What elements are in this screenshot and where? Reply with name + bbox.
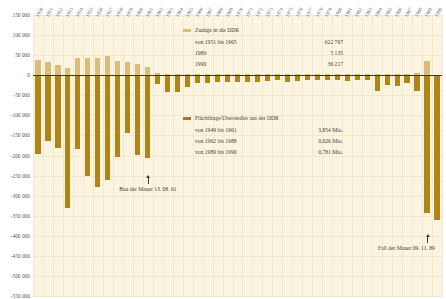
bar-negative: [414, 75, 419, 91]
bar-positive: [115, 61, 120, 75]
bar-positive: [45, 62, 50, 75]
bar-negative: [75, 75, 80, 149]
gridline-vertical: [432, 15, 433, 296]
annotation-arrow-icon: [146, 175, 150, 178]
gridline-vertical: [33, 15, 34, 296]
legend-row: von 1962 bis 19880,626 Mio.: [183, 136, 343, 147]
legend-row: von 1989 bis 19900,781 Mio.: [183, 147, 343, 158]
y-axis-tick-label: 150 000: [0, 12, 30, 18]
bar-positive: [135, 64, 140, 76]
bar-negative: [175, 75, 180, 92]
gridline-vertical: [392, 15, 393, 296]
bar-positive: [105, 56, 110, 75]
bar-negative: [35, 75, 40, 154]
bar-negative: [185, 75, 190, 87]
legend-title-row: Flüchtlinge/Übersiedler aus der DDR: [183, 113, 343, 124]
legend-row-value: 622 767: [299, 37, 343, 48]
bar-positive: [55, 65, 60, 75]
bar-negative: [385, 75, 390, 85]
y-axis-tick-label: -400 000: [0, 233, 30, 239]
bar-negative: [135, 75, 140, 155]
bar-positive: [75, 58, 80, 76]
bar-negative: [404, 75, 409, 83]
bar-negative: [65, 75, 70, 208]
bar-positive: [125, 62, 130, 76]
legend-title: Flüchtlinge/Übersiedler aus der DDR: [195, 113, 279, 124]
gridline-horizontal: [33, 196, 442, 197]
gridline-vertical: [173, 15, 174, 296]
legend-row: 199036 217: [183, 59, 343, 70]
gridline-vertical: [63, 15, 64, 296]
bar-negative: [205, 75, 210, 83]
y-axis-tick-label: -150 000: [0, 132, 30, 138]
legend-row-value: 5 135: [299, 48, 343, 59]
gridline-vertical: [382, 15, 383, 296]
gridline-vertical: [412, 15, 413, 296]
y-axis-tick-label: -450 000: [0, 253, 30, 259]
y-axis-tick-label: 50 000: [0, 52, 30, 58]
gridline-vertical: [163, 15, 164, 296]
legend-title-row: Zuzüge in die DDR: [183, 25, 343, 36]
gridline-vertical: [93, 15, 94, 296]
gridline-vertical: [83, 15, 84, 296]
legend-swatch-icon: [183, 29, 191, 32]
y-axis-tick-label: -100 000: [0, 112, 30, 118]
y-axis-tick-label: -550 000: [0, 293, 30, 299]
legend-row-value: 0,781 Mio.: [299, 147, 343, 158]
gridline-horizontal: [33, 276, 442, 277]
bar-negative: [55, 75, 60, 148]
y-axis-tick-label: -50 000: [0, 92, 30, 98]
bar-positive: [35, 60, 40, 75]
bar-negative: [255, 75, 260, 82]
bar-negative: [85, 75, 90, 176]
legend-zuzuege: Zuzüge in die DDRvon 1951 bis 1965622 76…: [183, 25, 343, 70]
gridline-vertical: [402, 15, 403, 296]
bar-negative: [225, 75, 230, 82]
legend-row: von 1951 bis 1965622 767: [183, 37, 343, 48]
y-axis-tick-label: -350 000: [0, 213, 30, 219]
gridline-horizontal: [33, 216, 442, 217]
gridline-vertical: [133, 15, 134, 296]
legend-row-value: 36 217: [299, 59, 343, 70]
gridline-vertical: [53, 15, 54, 296]
bar-negative: [155, 75, 160, 83]
gridline-vertical: [422, 15, 423, 296]
gridline-vertical: [113, 15, 114, 296]
annotation-label: Bau der Mauer 13. 08. 61: [119, 186, 176, 192]
bar-negative: [115, 75, 120, 157]
legend-row-label: 1989: [195, 48, 299, 59]
gridline-vertical: [153, 15, 154, 296]
y-axis-tick-label: 0: [0, 72, 30, 78]
legend-row-label: von 1989 bis 1990: [195, 147, 299, 158]
gridline-vertical: [103, 15, 104, 296]
bar-positive: [95, 58, 100, 75]
bar-negative: [145, 75, 150, 158]
bar-negative: [375, 75, 380, 91]
bar-positive: [65, 68, 70, 75]
bar-negative: [125, 75, 130, 132]
gridline-vertical: [123, 15, 124, 296]
gridline-vertical: [352, 15, 353, 296]
y-axis-tick-label: 100 000: [0, 32, 30, 38]
legend-row-value: 3,854 Mio.: [299, 125, 343, 136]
legend-row-label: von 1949 bis 1961: [195, 125, 299, 136]
annotation-pointer: [427, 237, 428, 243]
legend-row: 19895 135: [183, 48, 343, 59]
bar-negative: [434, 75, 439, 220]
legend-row-label: von 1951 bis 1965: [195, 37, 299, 48]
legend-fluechtlinge: Flüchtlinge/Übersiedler aus der DDRvon 1…: [183, 113, 343, 158]
annotation-label: Fall der Mauer 09. 11. 89: [378, 245, 435, 251]
bar-negative: [105, 75, 110, 180]
y-axis-tick-label: -500 000: [0, 273, 30, 279]
gridline-vertical: [73, 15, 74, 296]
legend-row-label: von 1962 bis 1988: [195, 136, 299, 147]
bar-negative: [45, 75, 50, 141]
gridline-vertical: [442, 15, 443, 296]
legend-swatch-icon: [183, 117, 191, 120]
bar-negative: [395, 75, 400, 85]
bar-negative: [424, 75, 429, 213]
legend-title: Zuzüge in die DDR: [195, 25, 239, 36]
bar-negative: [95, 75, 100, 187]
legend-row-value: 0,626 Mio.: [299, 136, 343, 147]
